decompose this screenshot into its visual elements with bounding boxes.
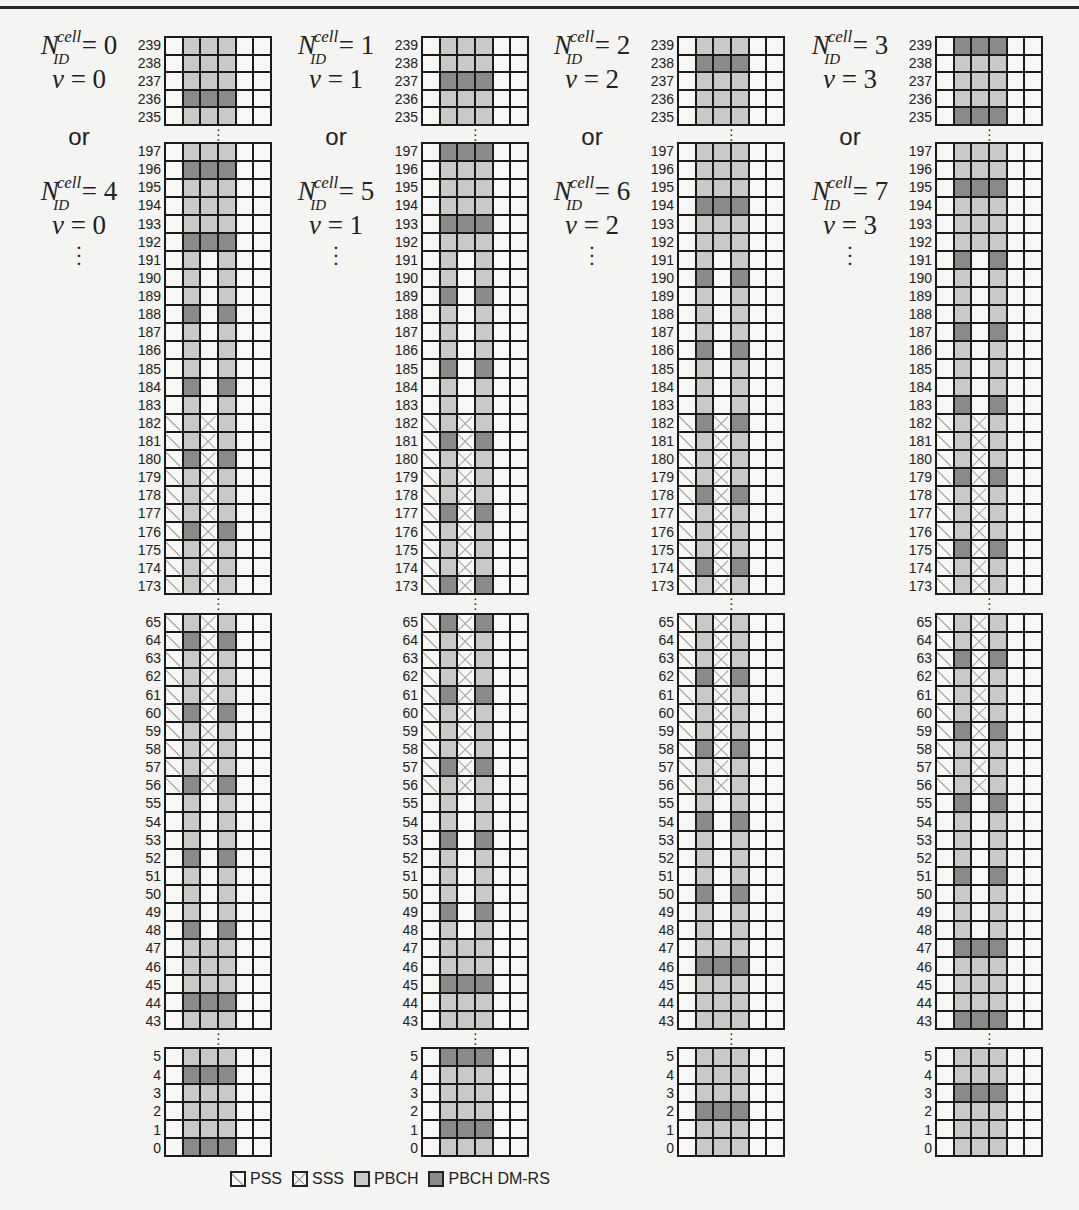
subcarrier-index: 52 (145, 851, 161, 865)
re-cell-pbch (714, 91, 730, 107)
re-cell-empty (679, 162, 695, 178)
re-cell-sss (458, 615, 474, 631)
re-cell-sss (458, 651, 474, 667)
re-cell-pbch (476, 633, 492, 649)
re-cell-pbch (990, 741, 1006, 757)
re-cell-pbch (184, 397, 200, 413)
re-cell-pbch (219, 615, 235, 631)
re-cell-dmrs (990, 252, 1006, 268)
subcarrier-index: 60 (658, 706, 674, 720)
re-cell-sss (201, 559, 217, 575)
re-cell-sss (201, 577, 217, 593)
re-cell-pbch (476, 451, 492, 467)
re-cell-empty (511, 651, 527, 667)
re-cell-pbch (990, 216, 1006, 232)
re-cell-pss (937, 487, 953, 503)
re-cell-pbch (955, 487, 971, 503)
re-cell-empty (1008, 379, 1024, 395)
re-cell-pbch (184, 216, 200, 232)
re-cell-pbch (697, 651, 713, 667)
re-cell-pbch (219, 415, 235, 431)
re-cell-empty (423, 91, 439, 107)
re-cell-empty (494, 1103, 510, 1119)
re-cell-dmrs (697, 342, 713, 358)
sss-swatch-icon (292, 1171, 308, 1187)
re-cell-dmrs (955, 469, 971, 485)
re-cell-pbch (714, 180, 730, 196)
re-cell-pbch (184, 559, 200, 575)
re-cell-pbch (714, 1085, 730, 1101)
re-cell-pbch (732, 705, 748, 721)
re-cell-empty (237, 904, 253, 920)
re-cell-empty (494, 487, 510, 503)
re-cell-pbch (990, 958, 1006, 974)
re-cell-pbch (476, 523, 492, 539)
re-cell-dmrs (972, 108, 988, 124)
re-cell-pbch (955, 56, 971, 72)
re-cell-pbch (476, 469, 492, 485)
re-cell-pbch (476, 487, 492, 503)
re-cell-empty (750, 1139, 766, 1155)
re-cell-dmrs (697, 415, 713, 431)
re-cell-empty (423, 832, 439, 848)
re-cell-empty (494, 615, 510, 631)
re-cell-sss (201, 741, 217, 757)
subcarrier-index: 235 (909, 110, 932, 124)
re-cell-empty (1008, 397, 1024, 413)
grid-block (164, 613, 272, 1030)
re-cell-pbch (184, 958, 200, 974)
re-cell-empty (1008, 651, 1024, 667)
subcarrier-index: 175 (651, 543, 674, 557)
re-cell-pss (423, 451, 439, 467)
re-cell-empty (1008, 940, 1024, 956)
re-cell-dmrs (955, 868, 971, 884)
re-cell-pbch (219, 73, 235, 89)
re-cell-empty (750, 270, 766, 286)
re-cell-pbch (441, 180, 457, 196)
re-cell-empty (750, 469, 766, 485)
subcarrier-index: 2 (410, 1104, 418, 1118)
subcarrier-index: 65 (658, 615, 674, 629)
subcarrier-index: 54 (402, 815, 418, 829)
subcarrier-index: 2 (666, 1104, 674, 1118)
re-cell-pbch (990, 559, 1006, 575)
re-cell-empty (237, 1067, 253, 1083)
re-cell-pbch (184, 415, 200, 431)
re-cell-empty (237, 397, 253, 413)
re-cell-empty (423, 306, 439, 322)
re-cell-pss (937, 759, 953, 775)
re-cell-empty (1025, 940, 1041, 956)
re-cell-empty (972, 922, 988, 938)
re-cell-empty (750, 91, 766, 107)
re-cell-dmrs (732, 958, 748, 974)
nid-value: = 2 (588, 30, 630, 60)
subcarrier-index: 44 (145, 996, 161, 1010)
re-cell-pss (937, 723, 953, 739)
re-cell-pbch (697, 1012, 713, 1028)
re-cell-dmrs (441, 687, 457, 703)
re-cell-pbch (955, 216, 971, 232)
legend-item-pbch: PBCH (354, 1170, 418, 1188)
subcarrier-index: 188 (138, 307, 161, 321)
re-cell-pbch (955, 777, 971, 793)
re-cell-pbch (732, 687, 748, 703)
re-cell-empty (494, 288, 510, 304)
re-cell-empty (1008, 162, 1024, 178)
re-cell-empty (1008, 994, 1024, 1010)
re-cell-empty (494, 1139, 510, 1155)
re-cell-pss (166, 633, 182, 649)
re-cell-sss (714, 559, 730, 575)
re-cell-pbch (990, 505, 1006, 521)
re-cell-empty (1025, 1103, 1041, 1119)
re-cell-pss (166, 505, 182, 521)
re-cell-pbch (201, 1049, 217, 1065)
re-cell-empty (750, 415, 766, 431)
re-cell-pbch (184, 615, 200, 631)
subcarrier-index: 63 (916, 651, 932, 665)
re-cell-empty (767, 144, 783, 160)
re-cell-empty (423, 234, 439, 250)
re-cell-empty (767, 73, 783, 89)
re-cell-dmrs (184, 633, 200, 649)
re-cell-dmrs (972, 38, 988, 54)
re-cell-dmrs (476, 433, 492, 449)
